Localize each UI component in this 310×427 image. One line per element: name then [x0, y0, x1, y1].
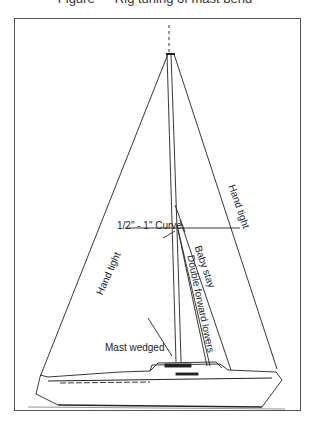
- sailboat-rig-diagram: [0, 0, 310, 427]
- deck-line: [40, 364, 276, 377]
- backstay: [174, 54, 277, 369]
- waterline: [58, 405, 262, 407]
- stern: [262, 372, 282, 407]
- curve-label: 1/2" - 1" Curve: [117, 220, 182, 231]
- mast-wedged-label: Mast wedged: [105, 342, 164, 353]
- mast-front: [167, 54, 176, 362]
- forestay: [40, 54, 168, 377]
